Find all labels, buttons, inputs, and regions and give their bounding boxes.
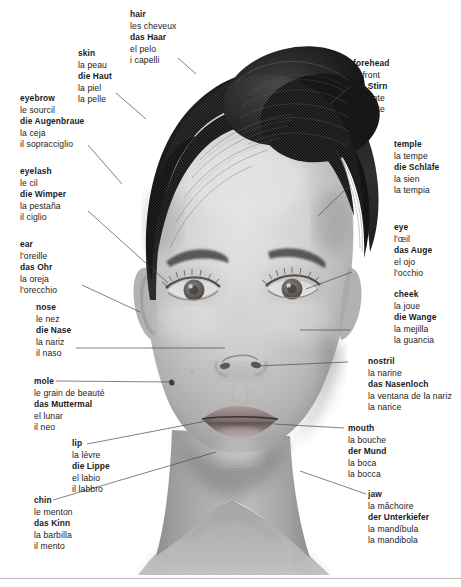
label-nose-de: die Nase xyxy=(36,325,71,337)
label-mole: mole le grain de beauté das Muttermal el… xyxy=(34,376,105,434)
label-jaw-de: der Unterkiefer xyxy=(368,512,429,524)
label-temple-es: la sien xyxy=(394,174,439,186)
figure-page: hair les cheveux das Haar el pelo i cape… xyxy=(0,0,461,587)
label-eyebrow-en: eyebrow xyxy=(20,93,84,105)
label-mouth-es: la boca xyxy=(348,458,386,470)
label-chin: chin le menton das Kinn la barbilla il m… xyxy=(34,495,73,553)
label-temple-de: die Schläfe xyxy=(394,162,439,174)
label-forehead-fr: le front xyxy=(353,70,390,82)
label-eyebrow-it: il sopracciglio xyxy=(20,139,84,151)
label-lip-de: die Lippe xyxy=(72,461,110,473)
label-forehead-it: la fronte xyxy=(353,104,390,116)
label-temple-fr: la tempe xyxy=(394,151,439,163)
label-eyebrow-es: la ceja xyxy=(20,128,84,140)
label-eye-fr: l'œil xyxy=(394,234,432,246)
label-chin-de: das Kinn xyxy=(34,518,73,530)
label-hair-de: das Haar xyxy=(130,32,176,44)
label-cheek-it: la guancia xyxy=(394,335,436,347)
label-hair-it: i capelli xyxy=(130,55,176,67)
label-lip-it: il labbro xyxy=(72,484,110,496)
label-eyelash: eyelash le cil die Wimper la pestaña il … xyxy=(20,166,66,224)
label-forehead-en: forehead xyxy=(353,58,390,70)
label-mouth-de: der Mund xyxy=(348,446,386,458)
label-temple-it: la tempia xyxy=(394,185,439,197)
label-cheek-es: la mejilla xyxy=(394,324,436,336)
label-ear-es: la oreja xyxy=(20,274,57,286)
label-eye-de: das Auge xyxy=(394,245,432,257)
label-nostril-es: la ventana de la nariz xyxy=(368,391,452,403)
label-ear-de: das Ohr xyxy=(20,262,57,274)
label-nose-en: nose xyxy=(36,302,71,314)
label-cheek-en: cheek xyxy=(394,289,436,301)
label-temple-en: temple xyxy=(394,139,439,151)
label-mole-it: il neo xyxy=(34,422,105,434)
label-cheek-fr: la joue xyxy=(394,301,436,313)
label-nostril: nostril la narine das Nasenloch la venta… xyxy=(368,356,452,414)
label-skin-de: die Haut xyxy=(78,71,112,83)
label-eyebrow: eyebrow le sourcil die Augenbraue la cej… xyxy=(20,93,84,151)
label-nostril-fr: la narine xyxy=(368,368,452,380)
label-nose-fr: le nez xyxy=(36,314,71,326)
label-eye-it: l'occhio xyxy=(394,268,432,280)
label-ear: ear l'oreille das Ohr la oreja l'orecchi… xyxy=(20,239,57,297)
bottom-divider-rule xyxy=(0,578,461,579)
label-cheek-de: die Wange xyxy=(394,312,436,324)
label-mole-de: das Muttermal xyxy=(34,399,105,411)
label-eye: eye l'œil das Auge el ojo l'occhio xyxy=(394,222,432,280)
label-nose-it: il naso xyxy=(36,348,71,360)
label-jaw-it: la mandibola xyxy=(368,535,429,547)
label-mouth: mouth la bouche der Mund la boca la bocc… xyxy=(348,423,386,481)
label-eyelash-de: die Wimper xyxy=(20,189,66,201)
label-cheek: cheek la joue die Wange la mejilla la gu… xyxy=(394,289,436,347)
label-hair-en: hair xyxy=(130,9,176,21)
label-eyelash-es: la pestaña xyxy=(20,201,66,213)
label-temple: temple la tempe die Schläfe la sien la t… xyxy=(394,139,439,197)
label-jaw-es: la mandíbula xyxy=(368,524,429,536)
label-jaw: jaw la mâchoire der Unterkiefer la mandí… xyxy=(368,489,429,547)
label-mouth-en: mouth xyxy=(348,423,386,435)
label-nose: nose le nez die Nase la nariz il naso xyxy=(36,302,71,360)
label-mole-fr: le grain de beauté xyxy=(34,388,105,400)
label-nostril-en: nostril xyxy=(368,356,452,368)
label-mole-en: mole xyxy=(34,376,105,388)
label-ear-it: l'orecchio xyxy=(20,285,57,297)
label-eyebrow-fr: le sourcil xyxy=(20,105,84,117)
label-ear-en: ear xyxy=(20,239,57,251)
label-jaw-en: jaw xyxy=(368,489,429,501)
label-eyelash-en: eyelash xyxy=(20,166,66,178)
label-hair: hair les cheveux das Haar el pelo i cape… xyxy=(130,9,176,67)
label-skin-fr: la peau xyxy=(78,60,112,72)
label-mouth-it: la bocca xyxy=(348,469,386,481)
label-hair-fr: les cheveux xyxy=(130,21,176,33)
label-lip-fr: la lèvre xyxy=(72,450,110,462)
label-eyelash-fr: le cil xyxy=(20,178,66,190)
label-eye-es: el ojo xyxy=(394,257,432,269)
label-lip: lip la lèvre die Lippe el labio il labbr… xyxy=(72,438,110,496)
label-hair-es: el pelo xyxy=(130,44,176,56)
label-nostril-de: das Nasenloch xyxy=(368,379,452,391)
label-forehead-de: die Stirn xyxy=(353,81,390,93)
label-mouth-fr: la bouche xyxy=(348,435,386,447)
label-lip-en: lip xyxy=(72,438,110,450)
label-eye-en: eye xyxy=(394,222,432,234)
label-mole-es: el lunar xyxy=(34,411,105,423)
label-eyebrow-de: die Augenbraue xyxy=(20,116,84,128)
label-nose-es: la nariz xyxy=(36,337,71,349)
label-forehead: forehead le front die Stirn la frente la… xyxy=(353,58,390,116)
label-eyelash-it: il ciglio xyxy=(20,212,66,224)
label-ear-fr: l'oreille xyxy=(20,251,57,263)
label-forehead-es: la frente xyxy=(353,93,390,105)
label-chin-fr: le menton xyxy=(34,507,73,519)
label-skin-en: skin xyxy=(78,48,112,60)
label-jaw-fr: la mâchoire xyxy=(368,501,429,513)
label-chin-en: chin xyxy=(34,495,73,507)
label-nostril-it: la narice xyxy=(368,402,452,414)
label-chin-it: il mento xyxy=(34,541,73,553)
label-lip-es: el labio xyxy=(72,473,110,485)
label-chin-es: la barbilla xyxy=(34,530,73,542)
